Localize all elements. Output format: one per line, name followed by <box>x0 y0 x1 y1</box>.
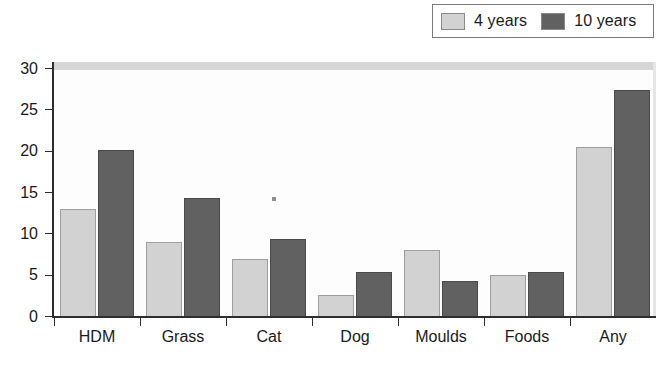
x-label-foods: Foods <box>505 328 549 346</box>
x-label-dog: Dog <box>340 328 369 346</box>
bar-any-10-years <box>614 90 650 316</box>
y-tick-label-0: 0 <box>29 308 38 326</box>
y-tick-label-30: 30 <box>20 60 38 78</box>
x-label-grass: Grass <box>162 328 205 346</box>
bar-dog-10-years <box>356 272 392 316</box>
legend-label-4-years: 4 years <box>474 12 527 30</box>
legend-entry-10-years: 10 years <box>541 12 636 30</box>
y-tick-label-5: 5 <box>29 266 38 284</box>
y-tick-label-25: 25 <box>20 101 38 119</box>
x-tick-3 <box>312 318 313 326</box>
x-tick-2 <box>226 318 227 326</box>
y-tick-20: 20 <box>45 151 52 152</box>
legend-label-10-years: 10 years <box>574 12 636 30</box>
bar-hdm-4-years <box>60 209 96 316</box>
y-tick-10: 10 <box>45 233 52 234</box>
legend-entry-4-years: 4 years <box>441 12 527 30</box>
x-axis-line <box>52 316 656 318</box>
chart-page: 4 years 10 years 051015202530 HDMGrassCa… <box>0 0 669 370</box>
x-label-cat: Cat <box>257 328 282 346</box>
x-label-hdm: HDM <box>79 328 115 346</box>
bars-layer <box>54 62 656 316</box>
y-tick-label-15: 15 <box>20 184 38 202</box>
x-label-moulds: Moulds <box>415 328 467 346</box>
y-tick-label-20: 20 <box>20 142 38 160</box>
y-tick-0: 0 <box>45 316 52 317</box>
bar-any-4-years <box>576 147 612 316</box>
y-tick-5: 5 <box>45 275 52 276</box>
bar-cat-4-years <box>232 259 268 316</box>
dark-gray-swatch-icon <box>541 13 565 30</box>
bar-hdm-10-years <box>98 150 134 316</box>
x-tick-5 <box>484 318 485 326</box>
x-tick-1 <box>140 318 141 326</box>
bar-grass-4-years <box>146 242 182 316</box>
bar-grass-10-years <box>184 198 220 316</box>
bar-moulds-4-years <box>404 250 440 316</box>
x-tick-6 <box>570 318 571 326</box>
light-gray-swatch-icon <box>441 13 465 30</box>
bar-dog-4-years <box>318 295 354 316</box>
x-tick-0 <box>54 318 55 326</box>
x-label-any: Any <box>599 328 627 346</box>
y-axis-line <box>52 62 54 318</box>
y-tick-30: 30 <box>45 68 52 69</box>
bar-moulds-10-years <box>442 281 478 316</box>
scan-speckle-artifact <box>272 197 276 201</box>
y-tick-label-10: 10 <box>20 225 38 243</box>
y-tick-25: 25 <box>45 109 52 110</box>
x-tick-4 <box>398 318 399 326</box>
bar-foods-4-years <box>490 275 526 316</box>
bar-cat-10-years <box>270 239 306 316</box>
bar-foods-10-years <box>528 272 564 316</box>
y-tick-15: 15 <box>45 192 52 193</box>
chart-legend: 4 years 10 years <box>432 4 654 38</box>
